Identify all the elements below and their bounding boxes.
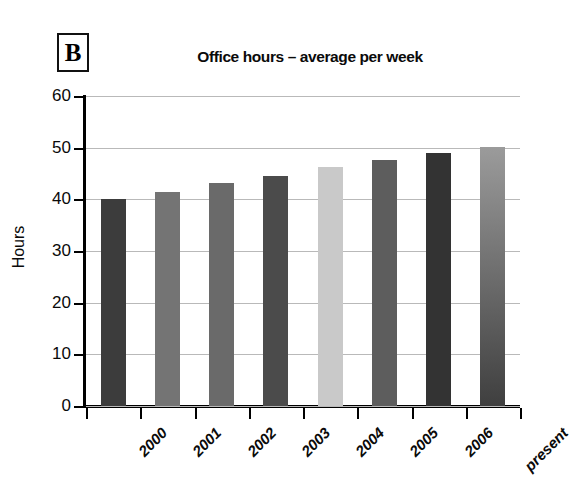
y-axis-tick-label: 0 [62, 397, 71, 414]
x-axis-tick [466, 408, 468, 419]
gridline [86, 199, 520, 200]
plot-area [86, 96, 520, 406]
y-axis-tick [74, 354, 84, 356]
y-axis-tick [74, 251, 84, 253]
y-axis-tick [74, 96, 84, 98]
gridline [86, 96, 520, 97]
x-axis-tick [195, 408, 197, 419]
gridline [86, 406, 520, 407]
x-axis-tick [357, 408, 359, 419]
x-axis-tick-label: 2006 [460, 424, 496, 460]
x-axis-tick [520, 408, 522, 419]
gridline [86, 251, 520, 252]
y-axis-tick-label: 30 [52, 242, 71, 259]
x-axis-tick-label: 2004 [352, 424, 388, 460]
y-axis-tick-labels: 0102030405060 [0, 0, 71, 503]
x-axis-tick [303, 408, 305, 419]
x-axis-tick-label: present [521, 424, 571, 474]
bar-2006 [426, 153, 451, 406]
chart-title: Office hours – average per week [100, 48, 520, 66]
y-axis-tick-label: 10 [52, 345, 71, 362]
y-axis-tick-label: 20 [52, 294, 71, 311]
y-axis-tick [74, 303, 84, 305]
bar-2004 [318, 167, 343, 406]
x-axis-tick-label: 2001 [189, 424, 225, 460]
gridline [86, 354, 520, 355]
y-axis-tick [74, 199, 84, 201]
x-axis-tick [412, 408, 414, 419]
y-axis-tick [74, 406, 84, 408]
bar-present [480, 147, 505, 406]
x-axis-tick-label: 2003 [298, 424, 334, 460]
x-axis-tick [249, 408, 251, 419]
x-axis-tick-label: 2005 [406, 424, 442, 460]
bar-2003 [263, 176, 288, 406]
y-axis-tick-label: 50 [52, 139, 71, 156]
x-axis-tick [140, 408, 142, 419]
x-axis-tick [86, 408, 88, 419]
x-axis-tick-label: 2000 [135, 424, 171, 460]
y-axis-tick [74, 148, 84, 150]
bar-2001 [155, 192, 180, 406]
gridline [86, 303, 520, 304]
x-axis-tick-label: 2002 [243, 424, 279, 460]
bar-2002 [209, 183, 234, 406]
y-axis-tick-label: 60 [52, 87, 71, 104]
gridline [86, 148, 520, 149]
y-axis-tick-label: 40 [52, 190, 71, 207]
bar-2005 [372, 160, 397, 406]
bar-2000 [101, 199, 126, 406]
